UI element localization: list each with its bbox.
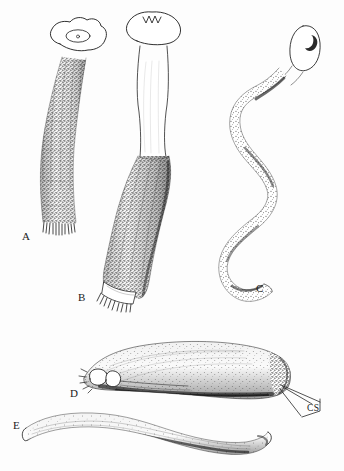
panel-label-d: D — [70, 388, 78, 399]
specimen-d — [79, 338, 296, 402]
specimen-a-shaft — [38, 52, 94, 230]
panel-label-a: A — [22, 231, 30, 242]
specimen-b-neck — [137, 46, 168, 157]
figure-plate: A B C D E CS — [0, 0, 344, 471]
specimen-c-head — [290, 26, 320, 71]
annotation-label-cs: CS — [307, 404, 319, 414]
specimen-b — [97, 12, 181, 312]
specimen-a-basal-fringe — [43, 222, 75, 235]
panel-label-b: B — [78, 292, 86, 303]
panel-label-e: E — [13, 420, 20, 431]
specimen-b-body — [100, 150, 178, 306]
specimen-a — [38, 18, 106, 235]
specimen-e-blunt-end — [268, 432, 271, 444]
panel-label-c: C — [256, 283, 264, 294]
specimen-c-body — [219, 68, 286, 301]
illustration-canvas — [0, 0, 344, 471]
specimen-e-body — [20, 408, 276, 460]
specimen-b-cap — [126, 12, 180, 45]
specimen-d-body — [80, 338, 296, 402]
specimen-a-aperture-pore — [77, 35, 80, 38]
specimen-c — [219, 26, 320, 302]
specimen-e — [20, 408, 276, 460]
